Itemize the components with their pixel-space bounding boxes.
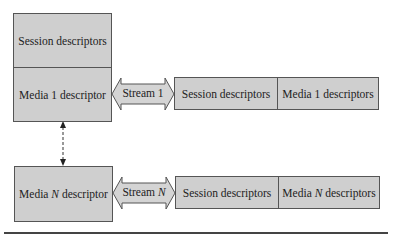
row2-media-box: Media N descriptors <box>278 176 380 209</box>
stream-1-label: Stream 1 <box>121 87 165 99</box>
media-n-descriptor-label: Media N descriptor <box>19 188 108 200</box>
media-1-descriptor-box: Media 1 descriptor <box>13 67 112 122</box>
session-descriptors-box: Session descriptors <box>13 13 112 68</box>
session-descriptors-label: Session descriptors <box>18 35 106 47</box>
media-n-descriptor-box: Media N descriptor <box>14 166 113 222</box>
media-1-descriptor-label: Media 1 descriptor <box>19 89 106 101</box>
row1-media-box: Media 1 descriptors <box>277 77 379 110</box>
arrowhead-up-icon <box>60 121 66 128</box>
arrowhead-down-icon <box>60 159 66 166</box>
row2-session-box: Session descriptors <box>175 176 279 209</box>
stream-n-label: Stream N <box>122 186 166 198</box>
bottom-rule <box>4 232 388 234</box>
row1-session-box: Session descriptors <box>174 77 278 110</box>
